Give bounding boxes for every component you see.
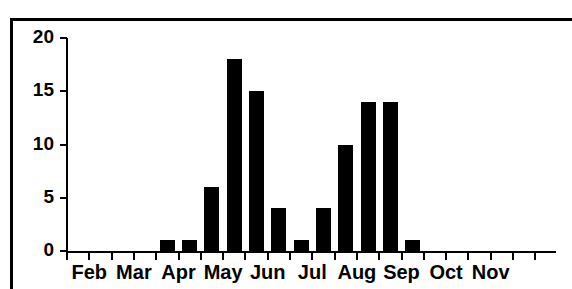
x-tick-21	[534, 253, 536, 260]
x-tick-11	[311, 253, 313, 260]
bar	[160, 240, 175, 251]
bar	[204, 187, 219, 251]
x-tick-12	[334, 253, 336, 260]
y-tick-label-5: 5	[14, 187, 54, 206]
x-tick-1	[88, 253, 90, 260]
y-tick-label-10: 10	[14, 134, 54, 153]
x-tick-19	[490, 253, 492, 260]
bar	[338, 145, 353, 252]
y-tick-label-0: 0	[14, 240, 54, 259]
x-tick-9	[267, 253, 269, 260]
x-tick-10	[289, 253, 291, 260]
x-tick-6	[200, 253, 202, 260]
y-tick-label-20: 20	[14, 27, 54, 46]
bar	[294, 240, 309, 251]
x-tick-16	[423, 253, 425, 260]
bar	[182, 240, 197, 251]
bar	[405, 240, 420, 251]
bar	[361, 102, 376, 251]
x-tick-20	[512, 253, 514, 260]
x-tick-18	[467, 253, 469, 260]
x-tick-14	[378, 253, 380, 260]
bar	[383, 102, 398, 251]
x-tick-4	[155, 253, 157, 260]
bar	[316, 208, 331, 251]
x-tick-15	[401, 253, 403, 260]
y-tick-5	[60, 197, 67, 199]
x-tick-5	[178, 253, 180, 260]
x-axis-label-nov: Nov	[459, 261, 523, 283]
x-tick-8	[244, 253, 246, 260]
x-tick-3	[133, 253, 135, 260]
x-tick-0	[66, 253, 68, 260]
y-tick-10	[60, 144, 67, 146]
plot-area: 05101520 FebMarAprMayJunJulAugSepOctNov	[0, 0, 572, 289]
bar	[249, 91, 264, 251]
x-tick-7	[222, 253, 224, 260]
y-tick-20	[60, 37, 67, 39]
x-tick-17	[445, 253, 447, 260]
y-tick-0	[60, 250, 67, 252]
bar	[271, 208, 286, 251]
y-tick-15	[60, 90, 67, 92]
x-tick-13	[356, 253, 358, 260]
y-axis-line	[66, 38, 68, 253]
x-tick-2	[111, 253, 113, 260]
chart-figure: 05101520 FebMarAprMayJunJulAugSepOctNov	[0, 0, 572, 289]
y-tick-label-15: 15	[14, 80, 54, 99]
bar	[227, 59, 242, 251]
